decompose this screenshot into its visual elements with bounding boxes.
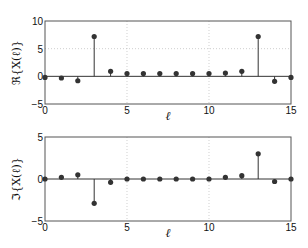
- y-tick-label: −5: [32, 216, 44, 227]
- x-axis-label: ℓ: [166, 226, 171, 240]
- stem-marker: [223, 70, 228, 75]
- stem-marker: [256, 151, 261, 156]
- stem-marker: [108, 180, 113, 185]
- y-tick-label: 10: [32, 16, 44, 27]
- x-tick-label: 10: [203, 105, 215, 116]
- stem-marker: [141, 176, 146, 181]
- stem-marker: [288, 176, 293, 181]
- stem-marker: [42, 75, 47, 80]
- stem-plots: 051015−50510ℜ{X(ℓ)}ℓ051015−505ℑ{X(ℓ)}ℓ: [0, 0, 308, 248]
- stem-marker: [190, 71, 195, 76]
- stem-marker: [239, 69, 244, 74]
- stem-marker: [124, 71, 129, 76]
- y-axis-label: ℜ{X(ℓ)}: [10, 40, 23, 85]
- stem-marker: [223, 175, 228, 180]
- stem-marker: [288, 75, 293, 80]
- stem-marker: [190, 176, 195, 181]
- stem-marker: [59, 175, 64, 180]
- stem-marker: [92, 34, 97, 39]
- stem-marker: [157, 176, 162, 181]
- x-tick-label: 10: [203, 222, 215, 233]
- x-tick-label: 15: [285, 105, 297, 116]
- imag-part-plot: 051015−505ℑ{X(ℓ)}ℓ: [10, 132, 297, 240]
- x-tick-label: 0: [42, 222, 48, 233]
- stem-marker: [206, 176, 211, 181]
- stem-marker: [108, 69, 113, 74]
- y-tick-label: 5: [37, 44, 43, 55]
- stem-marker: [59, 75, 64, 80]
- stem-marker: [256, 34, 261, 39]
- x-tick-label: 15: [285, 222, 297, 233]
- x-axis-label: ℓ: [166, 109, 171, 123]
- stem-marker: [239, 173, 244, 178]
- stem-marker: [124, 176, 129, 181]
- y-axis-label: ℑ{X(ℓ)}: [10, 157, 23, 201]
- stem-marker: [75, 78, 80, 83]
- stem-marker: [272, 79, 277, 84]
- stem-marker: [272, 179, 277, 184]
- stem-marker: [174, 176, 179, 181]
- y-tick-label: −5: [32, 99, 44, 110]
- x-tick-label: 0: [42, 105, 48, 116]
- y-tick-label: 5: [37, 132, 43, 143]
- stem-marker: [75, 172, 80, 177]
- stem-marker: [92, 201, 97, 206]
- x-tick-label: 5: [124, 105, 130, 116]
- stem-marker: [141, 71, 146, 76]
- real-part-plot: 051015−50510ℜ{X(ℓ)}ℓ: [10, 16, 297, 123]
- stem-marker: [157, 71, 162, 76]
- axes-box: [45, 21, 291, 104]
- stem-marker: [206, 71, 211, 76]
- stem-marker: [174, 71, 179, 76]
- x-tick-label: 5: [124, 222, 130, 233]
- stem-marker: [42, 176, 47, 181]
